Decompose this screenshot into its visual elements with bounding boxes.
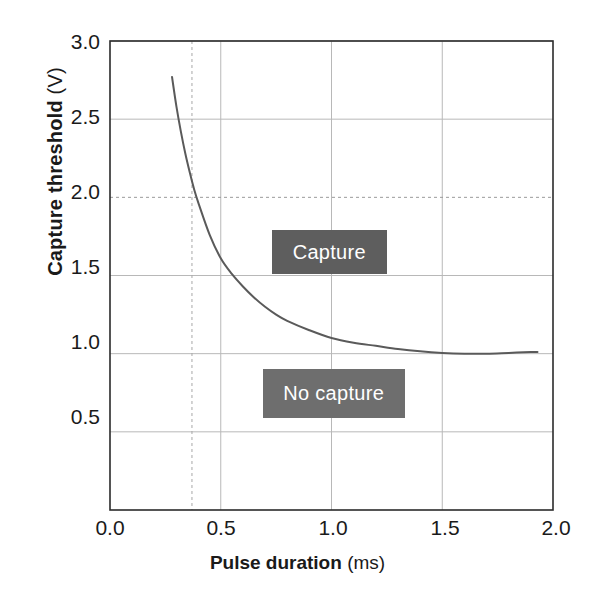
annotation-no-capture: No capture [263,369,405,417]
data-curve [172,77,537,354]
chart-figure: Capture threshold (V) Pulse duration (ms… [0,0,595,600]
plot-area [0,0,595,600]
annotation-capture-label: Capture [293,241,366,264]
annotation-no-capture-label: No capture [283,382,384,405]
annotation-capture: Capture [272,230,387,274]
